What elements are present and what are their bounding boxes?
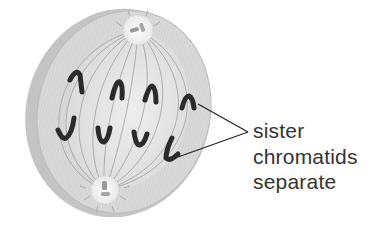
label-line-2: chromatids bbox=[253, 144, 358, 170]
label-line-1: sister bbox=[253, 118, 358, 144]
sister-chromatids-label: sister chromatids separate bbox=[253, 118, 358, 195]
label-line-3: separate bbox=[253, 169, 358, 195]
spindle-pole-lower bbox=[91, 176, 119, 204]
spindle-pole-upper bbox=[123, 15, 153, 45]
